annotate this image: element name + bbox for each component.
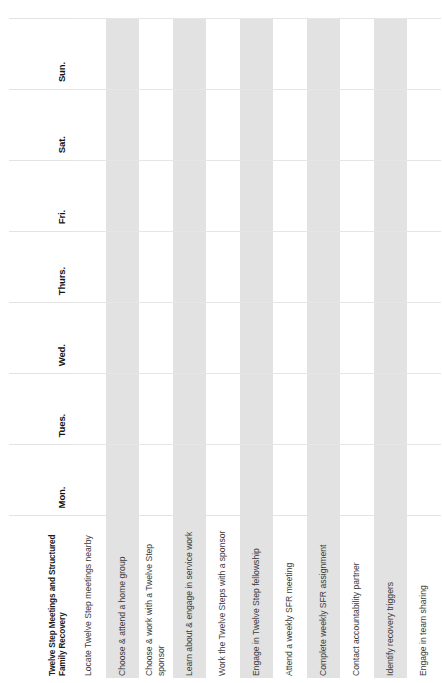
checkbox-cell[interactable] xyxy=(407,161,441,232)
table-row: Attend a weekly SFR meeting xyxy=(273,19,307,679)
checkbox-cell[interactable] xyxy=(273,19,307,90)
checkbox-cell[interactable] xyxy=(307,303,341,374)
checkbox-cell[interactable] xyxy=(374,445,408,516)
checkbox-cell[interactable] xyxy=(340,19,374,90)
checkbox-cell[interactable] xyxy=(273,303,307,374)
checkbox-cell[interactable] xyxy=(139,19,173,90)
checkbox-cell[interactable] xyxy=(72,445,106,516)
checkbox-cell[interactable] xyxy=(307,19,341,90)
checkbox-cell[interactable] xyxy=(407,19,441,90)
checkbox-cell[interactable] xyxy=(72,90,106,161)
task-label: Learn about & engage in service work xyxy=(173,516,207,678)
checkbox-cell[interactable] xyxy=(240,374,274,445)
task-label: Contact accountability partner xyxy=(340,516,374,678)
checkbox-cell[interactable] xyxy=(407,232,441,303)
checkbox-cell[interactable] xyxy=(72,19,106,90)
checkbox-cell[interactable] xyxy=(374,161,408,232)
task-label: Choose & attend a home group xyxy=(106,516,140,678)
checkbox-cell[interactable] xyxy=(307,161,341,232)
checkbox-cell[interactable] xyxy=(72,232,106,303)
checkbox-cell[interactable] xyxy=(240,303,274,374)
table-row: Contact accountability partner xyxy=(340,19,374,679)
checkbox-cell[interactable] xyxy=(106,19,140,90)
checkbox-cell[interactable] xyxy=(240,445,274,516)
checkbox-cell[interactable] xyxy=(106,161,140,232)
column-header-thurs: Thurs. xyxy=(9,232,72,303)
checkbox-cell[interactable] xyxy=(173,161,207,232)
checkbox-cell[interactable] xyxy=(72,374,106,445)
checkbox-cell[interactable] xyxy=(206,445,240,516)
checkbox-cell[interactable] xyxy=(206,90,240,161)
checkbox-cell[interactable] xyxy=(374,232,408,303)
checkbox-cell[interactable] xyxy=(340,303,374,374)
checkbox-cell[interactable] xyxy=(273,374,307,445)
table-row: Work the Twelve Steps with a sponsor xyxy=(206,19,240,679)
header-row: Twelve Step Meetings and Structured Fami… xyxy=(9,19,72,679)
checkbox-cell[interactable] xyxy=(106,303,140,374)
checkbox-cell[interactable] xyxy=(139,161,173,232)
checkbox-cell[interactable] xyxy=(106,232,140,303)
table-row: Complete weekly SFR assignment xyxy=(307,19,341,679)
checkbox-cell[interactable] xyxy=(240,232,274,303)
checkbox-cell[interactable] xyxy=(139,232,173,303)
checkbox-cell[interactable] xyxy=(340,90,374,161)
table-row: Identify recovery triggers xyxy=(374,19,408,679)
checkbox-cell[interactable] xyxy=(106,374,140,445)
checkbox-cell[interactable] xyxy=(139,90,173,161)
checkbox-cell[interactable] xyxy=(340,161,374,232)
checkbox-cell[interactable] xyxy=(340,374,374,445)
checkbox-cell[interactable] xyxy=(206,232,240,303)
checkbox-cell[interactable] xyxy=(173,374,207,445)
task-label: Choose & work with a Twelve Step sponsor xyxy=(139,516,173,678)
checkbox-cell[interactable] xyxy=(407,90,441,161)
checkbox-cell[interactable] xyxy=(273,445,307,516)
checkbox-cell[interactable] xyxy=(307,374,341,445)
task-label: Locate Twelve Step meetings nearby xyxy=(72,516,106,678)
column-header-tues: Tues. xyxy=(9,374,72,445)
checkbox-cell[interactable] xyxy=(173,90,207,161)
checkbox-cell[interactable] xyxy=(273,90,307,161)
checkbox-cell[interactable] xyxy=(407,374,441,445)
checkbox-cell[interactable] xyxy=(72,161,106,232)
task-label: Complete weekly SFR assignment xyxy=(307,516,341,678)
checkbox-cell[interactable] xyxy=(307,232,341,303)
checkbox-cell[interactable] xyxy=(173,232,207,303)
checkbox-cell[interactable] xyxy=(307,445,341,516)
checkbox-cell[interactable] xyxy=(240,161,274,232)
checkbox-cell[interactable] xyxy=(106,90,140,161)
checkbox-cell[interactable] xyxy=(407,303,441,374)
checkbox-cell[interactable] xyxy=(206,161,240,232)
checkbox-cell[interactable] xyxy=(374,90,408,161)
checkbox-cell[interactable] xyxy=(374,303,408,374)
checkbox-cell[interactable] xyxy=(139,303,173,374)
checkbox-cell[interactable] xyxy=(273,232,307,303)
checkbox-cell[interactable] xyxy=(173,445,207,516)
checkbox-cell[interactable] xyxy=(206,19,240,90)
checkbox-cell[interactable] xyxy=(407,445,441,516)
column-header-sat: Sat. xyxy=(9,90,72,161)
checkbox-cell[interactable] xyxy=(173,303,207,374)
table-row: Choose & work with a Twelve Step sponsor xyxy=(139,19,173,679)
column-header-mon: Mon. xyxy=(9,445,72,516)
checkbox-cell[interactable] xyxy=(106,445,140,516)
checkbox-cell[interactable] xyxy=(340,232,374,303)
checkbox-cell[interactable] xyxy=(173,19,207,90)
checkbox-cell[interactable] xyxy=(139,374,173,445)
rotated-worksheet-canvas: Twelve Step Meetings and Structured Fami… xyxy=(0,0,442,683)
table-header: Twelve Step Meetings and Structured Fami… xyxy=(9,19,72,679)
worksheet-sheet: Twelve Step Meetings and Structured Fami… xyxy=(9,0,442,683)
checkbox-cell[interactable] xyxy=(374,19,408,90)
checkbox-cell[interactable] xyxy=(273,161,307,232)
checkbox-cell[interactable] xyxy=(374,374,408,445)
checkbox-cell[interactable] xyxy=(139,445,173,516)
checkbox-cell[interactable] xyxy=(307,90,341,161)
task-label: Attend a weekly SFR meeting xyxy=(273,516,307,678)
checkbox-cell[interactable] xyxy=(340,445,374,516)
checkbox-cell[interactable] xyxy=(72,303,106,374)
checkbox-cell[interactable] xyxy=(206,374,240,445)
checkbox-cell[interactable] xyxy=(240,19,274,90)
column-header-wed: Wed. xyxy=(9,303,72,374)
worksheet-title: Twelve Step Meetings and Structured Fami… xyxy=(9,516,72,678)
checkbox-cell[interactable] xyxy=(206,303,240,374)
checkbox-cell[interactable] xyxy=(240,90,274,161)
